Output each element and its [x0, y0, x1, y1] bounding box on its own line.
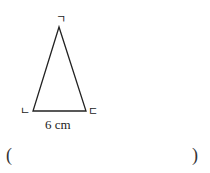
answer-close-paren: ) [192, 146, 198, 164]
answer-blank[interactable] [20, 148, 190, 166]
base-length-label: 6 cm [45, 118, 71, 131]
vertex-label-bottom-left: ㄴ [20, 106, 30, 117]
vertex-label-top: ㄱ [56, 14, 66, 25]
vertex-label-bottom-right: ㄷ [88, 106, 98, 117]
triangle [33, 27, 86, 111]
answer-open-paren: ( [6, 146, 12, 164]
